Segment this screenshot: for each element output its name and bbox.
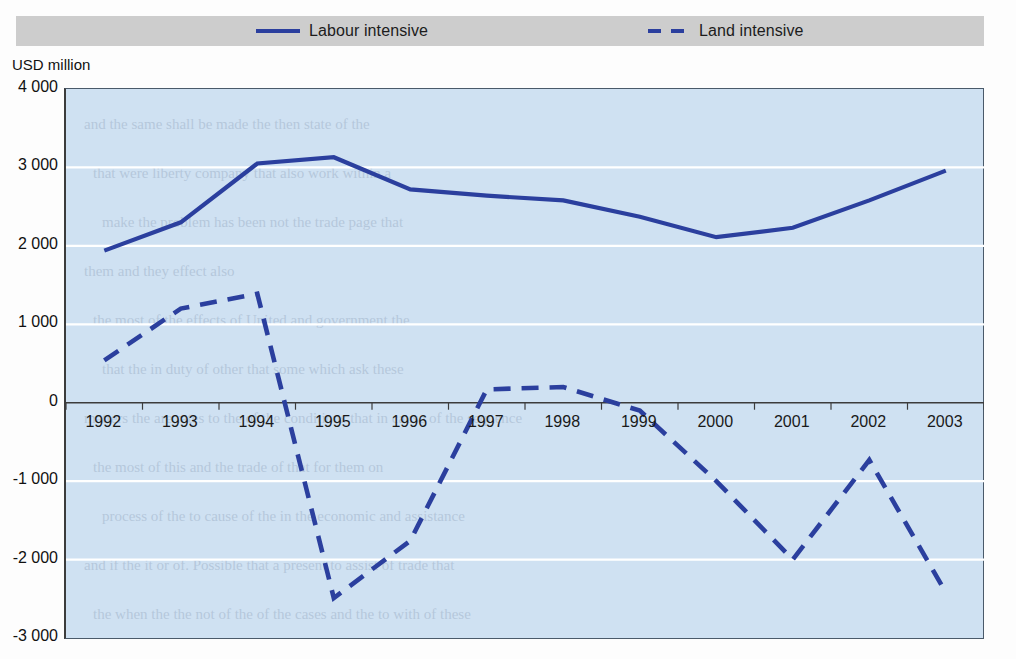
bleed-line: make the problem has been not the trade … [102,214,404,230]
bleed-line: the when the the not of the of the cases… [93,606,471,622]
bleed-line: process of the to cause of the in the ec… [102,508,465,524]
solid-line-swatch-icon [256,16,300,46]
bleed-line: and the same shall be made the then stat… [84,116,370,132]
plot-area: and the same shall be made the then stat… [64,88,984,639]
y-tick-label: -1 000 [2,470,58,488]
dashed-line-swatch-icon [646,16,690,46]
chart-figure: Labour intensive Land intensive USD mill… [0,0,1016,659]
y-axis-tick-labels: 4 0003 0002 0001 0000-1 000-2 000-3 000 [0,0,58,659]
y-tick-label: 1 000 [2,313,58,331]
y-tick-label: -3 000 [2,627,58,645]
legend-label-labour-intensive: Labour intensive [309,22,428,40]
bleed-line: matters the are rates to the of the cond… [84,410,523,426]
series-line-land-intensive [104,294,946,598]
bleed-line: the most of the effects of United and go… [93,312,410,328]
y-tick-label: 0 [2,392,58,410]
legend-item-labour-intensive: Labour intensive [256,16,428,46]
bleed-line: them and they effect also [84,263,235,279]
legend-item-land-intensive: Land intensive [646,16,804,46]
bleed-line: the most of this and the trade of that f… [93,459,384,475]
legend-label-land-intensive: Land intensive [699,22,804,40]
chart-legend: Labour intensive Land intensive [16,16,984,46]
y-tick-label: 4 000 [2,78,58,96]
y-tick-label: 2 000 [2,235,58,253]
y-tick-label: 3 000 [2,156,58,174]
chart-svg: and the same shall be made the then stat… [66,89,984,638]
y-tick-label: -2 000 [2,549,58,567]
bleed-line: that the in duty of other that some whic… [102,361,404,377]
